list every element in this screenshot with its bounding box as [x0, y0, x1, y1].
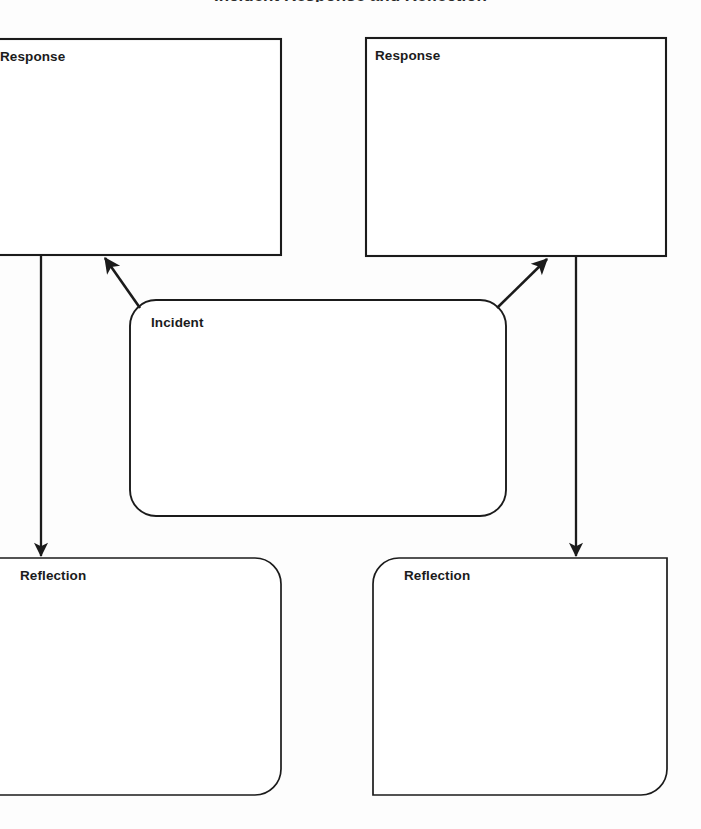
diagram-shapes [0, 0, 701, 829]
node-reflection-left [0, 558, 281, 795]
node-label-response-left: Response [0, 50, 65, 64]
edge-incident-to-response-left [105, 258, 140, 308]
diagram-canvas: Incident Response and Reflection Respons… [0, 0, 701, 829]
edge-incident-to-response-right [497, 259, 547, 308]
node-label-incident: Incident [151, 316, 204, 330]
node-label-reflection-left: Reflection [20, 569, 86, 583]
node-response-left [0, 39, 281, 255]
node-incident [130, 300, 506, 516]
node-label-response-right: Response [375, 49, 440, 63]
node-response-right [366, 38, 666, 256]
node-reflection-right [373, 558, 667, 795]
node-label-reflection-right: Reflection [404, 569, 470, 583]
